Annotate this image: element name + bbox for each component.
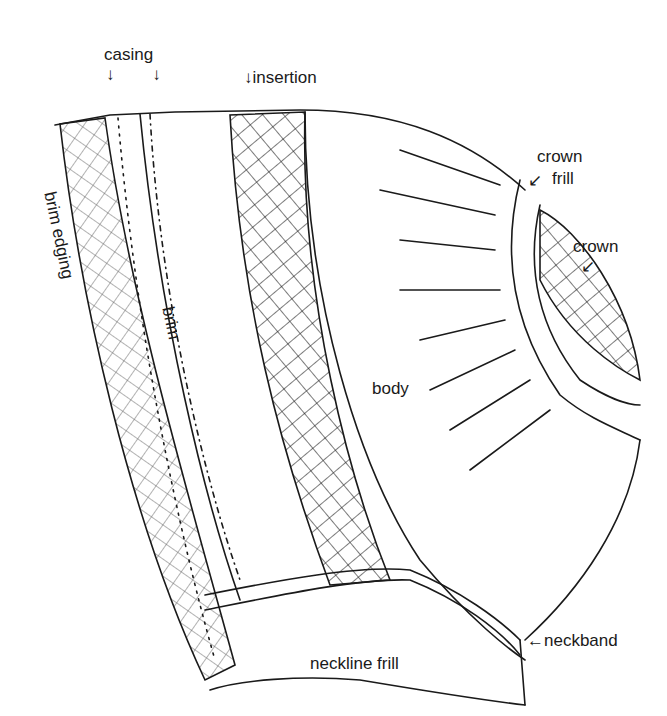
bonnet-diagram: casing ↓ ↓ ↓insertion crown frill ↙ crow… — [0, 0, 667, 716]
crown-region — [540, 210, 640, 380]
label-neckline-frill: neckline frill — [310, 655, 399, 672]
label-crown-frill-line2: frill — [552, 170, 574, 187]
label-crown-frill-line1: crown — [537, 148, 582, 165]
insertion-region — [230, 112, 390, 585]
label-body: body — [372, 380, 409, 397]
crown-arrow-icon: ↙ — [581, 258, 595, 275]
label-casing-arrows: ↓ ↓ — [106, 66, 161, 83]
brim-edging-region — [60, 118, 235, 680]
label-crown: crown — [573, 238, 618, 255]
label-neckband: ←neckband — [527, 632, 618, 649]
bonnet-sketch — [0, 0, 667, 716]
label-casing: casing — [104, 46, 153, 63]
crown-frill-arrow-icon: ↙ — [528, 172, 542, 189]
label-insertion: ↓insertion — [244, 69, 317, 86]
